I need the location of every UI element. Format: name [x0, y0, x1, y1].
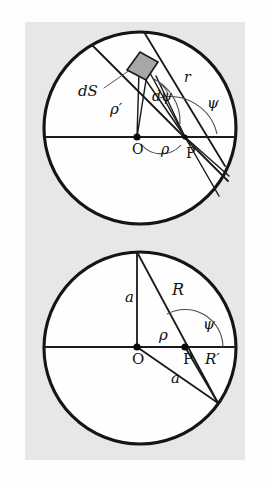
label-d-psi: dψ	[152, 88, 173, 104]
point-O-dot-top	[133, 133, 140, 140]
label-a-lower: a	[171, 369, 180, 387]
figure-root: dS ρ′ r dψ ψ O ρ P	[0, 0, 269, 482]
geometry-figure: dS ρ′ r dψ ψ O ρ P	[0, 0, 269, 482]
bottom-panel: a R ψ ρ O P R′ a	[44, 252, 236, 444]
label-R-prime: R′	[204, 350, 220, 368]
label-P-top: P	[186, 145, 195, 161]
label-rho-top: ρ	[160, 141, 170, 157]
label-dS: dS	[78, 82, 98, 100]
label-O-top: O	[132, 141, 143, 157]
top-panel: dS ρ′ r dψ ψ O ρ P	[44, 32, 236, 224]
label-rho-prime: ρ′	[109, 100, 123, 118]
label-psi-top: ψ	[207, 94, 219, 112]
point-P-dot-top	[182, 134, 187, 139]
label-psi-bottom: ψ	[203, 315, 215, 333]
label-R: R	[171, 280, 184, 299]
label-O-bottom: O	[132, 350, 144, 368]
label-rho-bottom: ρ	[158, 326, 168, 344]
label-a-upper: a	[125, 288, 134, 306]
label-P-bottom: P	[183, 350, 193, 368]
